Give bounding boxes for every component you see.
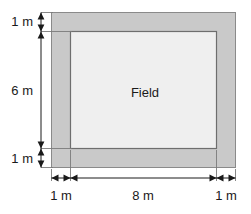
- dimension-label-left-border: 1 m: [50, 188, 72, 203]
- dimension-label-field-height: 6 m: [11, 83, 33, 98]
- dimension-label-top-border: 1 m: [11, 14, 33, 29]
- dimension-label-right-border: 1 m: [215, 188, 237, 203]
- field-label: Field: [131, 85, 159, 100]
- dimension-label-field-width: 8 m: [132, 188, 154, 203]
- dimension-label-bottom-border: 1 m: [11, 151, 33, 166]
- diagram-canvas: Field 1 m 6 m 1 m: [0, 0, 251, 214]
- geometry-diagram: Field 1 m 6 m 1 m: [0, 0, 251, 214]
